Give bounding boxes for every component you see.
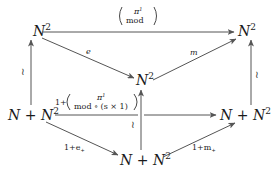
edge-m-arrow: [153, 39, 236, 80]
edge-center-iso-label: ≀: [131, 119, 135, 130]
edge-m-plus-label: 1+m+: [192, 143, 216, 153]
svg-text:π1: π1: [133, 6, 142, 16]
svg-text:1+: 1+: [55, 98, 67, 107]
edge-m-label: m: [190, 48, 198, 57]
node-top-right: N2: [237, 22, 256, 39]
edge-right-iso-label: ≀: [255, 69, 259, 80]
edge-top-label: π1 mod: [120, 6, 157, 25]
node-center: N2: [135, 71, 154, 88]
node-top-left: N2: [32, 22, 51, 39]
svg-text:mod ∘ (s × 1): mod ∘ (s × 1): [74, 102, 128, 111]
edge-left-iso-label: ≀: [21, 66, 25, 77]
commutative-diagram: N2 N2 N2 N + N2 N + N2 N + N2 π1 mod e m…: [0, 0, 277, 175]
node-mid-right: N + N2: [219, 106, 271, 123]
svg-text:π1: π1: [96, 92, 105, 102]
edge-e-label: e: [86, 47, 91, 56]
edge-e-arrow: [42, 38, 134, 78]
edge-middle-label: 1+ π1 mod ∘ (s × 1): [55, 92, 137, 111]
edge-e-plus-label: 1+e+: [64, 143, 85, 153]
node-bottom: N + N2: [119, 151, 171, 168]
node-mid-left: N + N2: [7, 106, 59, 123]
svg-text:mod: mod: [126, 16, 144, 25]
